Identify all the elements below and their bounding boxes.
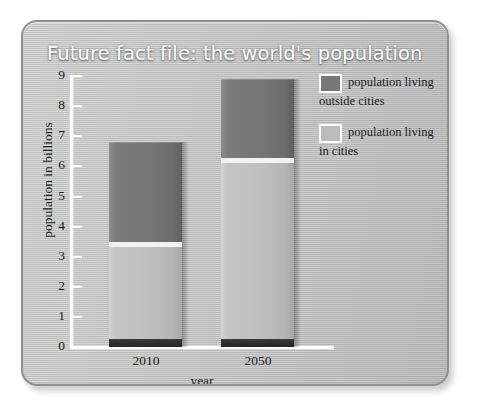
- bar-2050-segment-cities: [221, 163, 294, 347]
- bar-2050[interactable]: [221, 79, 294, 347]
- y-tick-0: [73, 346, 82, 348]
- bar-2010-segment-outside: [109, 142, 182, 246]
- x-axis-title: year: [70, 373, 334, 386]
- y-tick-4: [73, 226, 82, 228]
- legend-swatch-outside-icon: [319, 74, 342, 93]
- bar-2010-segment-cities: [109, 247, 182, 347]
- y-tick-6: [73, 165, 82, 167]
- y-axis-line: [70, 75, 73, 347]
- bar-2050-segment-outside: [221, 79, 294, 162]
- y-tick-9: [73, 75, 82, 77]
- y-tick-7: [73, 135, 82, 137]
- y-tick-5: [73, 196, 82, 198]
- legend-item-cities[interactable]: population living in cities: [319, 122, 441, 160]
- bar-2050-base-shadow: [221, 339, 294, 347]
- y-tick-label-0: 0: [47, 339, 65, 353]
- y-tick-label-2: 2: [47, 279, 65, 293]
- chart-panel: Future fact file: the world's population…: [21, 20, 449, 386]
- y-tick-label-9: 9: [47, 68, 65, 82]
- legend-swatch-cities-icon: [319, 124, 342, 143]
- bar-2050-side-shadow: [294, 79, 301, 347]
- y-tick-label-1: 1: [47, 309, 65, 323]
- y-tick-1: [73, 316, 82, 318]
- x-tick-label-2010: 2010: [106, 353, 186, 369]
- bar-2010-side-shadow: [182, 142, 189, 347]
- y-tick-3: [73, 256, 82, 258]
- bar-2010-base-shadow: [109, 339, 182, 347]
- chart-legend: population living outside cities populat…: [319, 72, 441, 172]
- y-axis-title: population in billions: [40, 85, 56, 275]
- y-tick-2: [73, 286, 82, 288]
- chart-page: Future fact file: the world's population…: [0, 0, 489, 415]
- x-tick-label-2050: 2050: [218, 353, 298, 369]
- y-tick-8: [73, 105, 82, 107]
- legend-item-outside[interactable]: population living outside cities: [319, 72, 441, 110]
- bar-2010[interactable]: [109, 142, 182, 347]
